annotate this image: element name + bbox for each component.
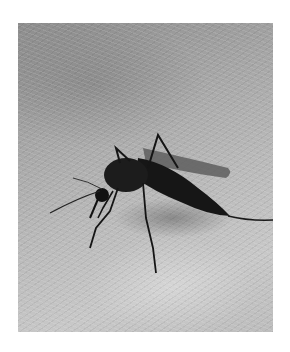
mosquito-figure [18, 23, 273, 332]
mosquito-photo [18, 23, 273, 332]
